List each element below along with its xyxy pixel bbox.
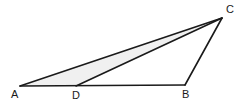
segment-ca bbox=[20, 18, 222, 86]
geometry-figure: A D B C bbox=[0, 0, 240, 107]
segment-ab bbox=[20, 85, 185, 86]
geometry-canvas bbox=[0, 0, 240, 107]
segment-dc bbox=[76, 18, 222, 86]
vertex-label-d: D bbox=[72, 90, 80, 101]
vertex-label-a: A bbox=[11, 89, 19, 100]
vertex-label-b: B bbox=[182, 89, 190, 100]
vertex-label-c: C bbox=[226, 4, 234, 15]
